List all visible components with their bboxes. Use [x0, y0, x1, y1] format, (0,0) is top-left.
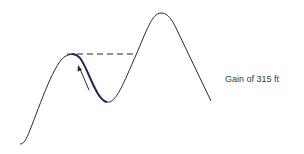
gain-label: Gain of 315 ft: [225, 74, 279, 84]
direction-arrow-icon: [78, 65, 90, 90]
highlighted-descent-segment: [72, 54, 107, 102]
elevation-curve: [20, 13, 211, 144]
